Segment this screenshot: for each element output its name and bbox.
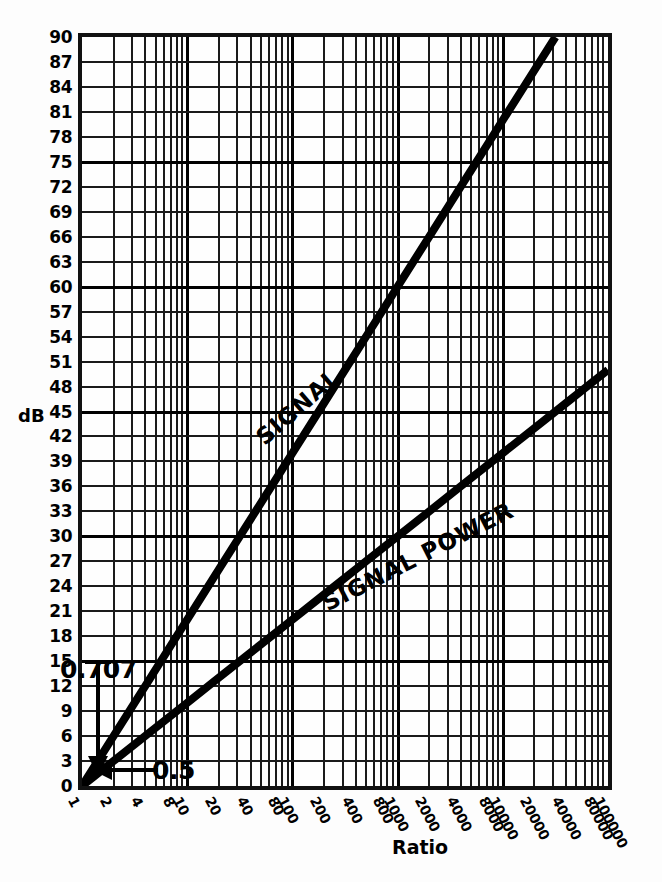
x-axis-title: Ratio bbox=[392, 836, 448, 858]
y-tick-label: 60 bbox=[49, 277, 72, 297]
y-tick-label: 42 bbox=[49, 426, 72, 446]
x-tick-label: 400 bbox=[339, 794, 366, 826]
y-tick-label: 48 bbox=[49, 377, 72, 397]
y-tick-label: 39 bbox=[49, 451, 72, 471]
x-tick-label: 20 bbox=[202, 794, 225, 818]
curve-signal bbox=[82, 37, 555, 786]
x-tick-label: 40 bbox=[233, 794, 256, 818]
y-tick-label: 63 bbox=[49, 252, 72, 272]
y-tick-label: 9 bbox=[61, 701, 72, 721]
curves-svg bbox=[82, 37, 608, 786]
x-tick-label: 2000 bbox=[412, 794, 443, 834]
y-tick-label: 30 bbox=[49, 526, 72, 546]
x-tick-label: 4000 bbox=[444, 794, 475, 834]
y-tick-label: 45 bbox=[49, 402, 72, 422]
y-tick-label: 36 bbox=[49, 476, 72, 496]
y-tick-label: 69 bbox=[49, 202, 72, 222]
y-tick-label: 24 bbox=[49, 576, 72, 596]
y-tick-label: 33 bbox=[49, 501, 72, 521]
y-tick-label: 21 bbox=[49, 601, 72, 621]
plot-area bbox=[78, 33, 612, 790]
y-tick-label: 18 bbox=[49, 626, 72, 646]
y-tick-label: 75 bbox=[49, 152, 72, 172]
y-tick-label: 78 bbox=[49, 127, 72, 147]
x-tick-label: 40000 bbox=[549, 794, 585, 842]
y-tick-label: 57 bbox=[49, 302, 72, 322]
x-tick-label: 1 bbox=[65, 794, 83, 810]
x-tick-label: 4 bbox=[128, 794, 146, 810]
y-tick-label: 6 bbox=[61, 726, 72, 746]
annotation-05-arrow bbox=[88, 757, 163, 783]
y-tick-label: 84 bbox=[49, 77, 72, 97]
y-tick-label: 87 bbox=[49, 52, 72, 72]
curve-layer bbox=[82, 37, 608, 786]
y-tick-label: 90 bbox=[49, 27, 72, 47]
y-tick-label: 66 bbox=[49, 227, 72, 247]
y-tick-label: 81 bbox=[49, 102, 72, 122]
x-axis-labels: 1248102040801002004008001000200040008000… bbox=[0, 790, 662, 860]
y-tick-label: 27 bbox=[49, 551, 72, 571]
y-axis-title: dB bbox=[18, 405, 45, 426]
x-tick-label: 200 bbox=[307, 794, 334, 826]
x-tick-label: 100 bbox=[275, 794, 302, 826]
y-tick-label: 51 bbox=[49, 352, 72, 372]
x-tick-label: 2 bbox=[97, 794, 115, 810]
y-tick-label: 54 bbox=[49, 327, 72, 347]
chart-page: 0369121518212427303336394245485154576063… bbox=[0, 0, 662, 882]
y-tick-label: 3 bbox=[61, 751, 72, 771]
y-tick-label: 72 bbox=[49, 177, 72, 197]
